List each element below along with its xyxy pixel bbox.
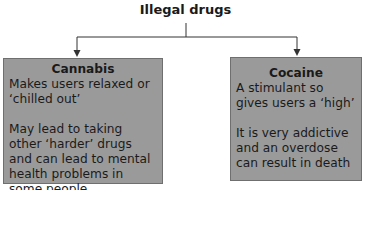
box-heading: Cocaine <box>236 66 356 81</box>
cocaine-box: Cocaine A stimulant so gives users a ‘hi… <box>230 57 362 181</box>
cannabis-box: Cannabis Makes users relaxed or ‘chilled… <box>3 58 163 184</box>
arrow-down-icon <box>294 49 301 56</box>
box-text: May lead to taking other ‘harder’ drugs … <box>9 122 157 190</box>
box-text: Makes users relaxed or ‘chilled out’ <box>9 77 157 107</box>
box-text: It is very addictive and an overdose can… <box>236 126 356 171</box>
arrow-down-icon <box>74 50 81 57</box>
box-text: A stimulant so gives users a ‘high’ <box>236 81 356 111</box>
box-heading: Cannabis <box>9 62 157 77</box>
